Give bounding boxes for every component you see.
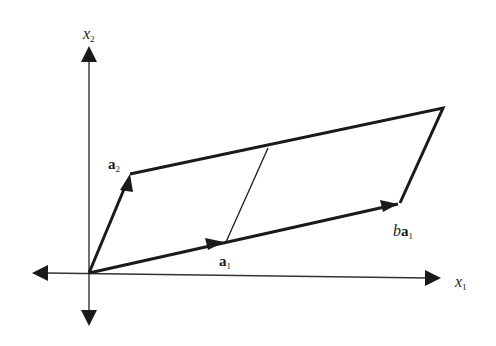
ba1-label-subscript: 1	[409, 231, 414, 241]
a2-label: a2	[108, 157, 120, 174]
x1-axis-left-arrow-icon	[32, 265, 48, 281]
a1-label: a1	[219, 254, 231, 271]
x2-label-subscript: 2	[90, 34, 95, 44]
ba1-scalar: b	[393, 222, 401, 239]
x2-axis	[81, 46, 97, 326]
x1-axis-label: x1	[455, 274, 467, 292]
x2-axis-label: x2	[83, 26, 95, 44]
x2-axis-down-arrow-icon	[81, 310, 97, 326]
x1-axis-right-arrow-icon	[425, 270, 441, 286]
x1-label-subscript: 1	[462, 282, 467, 292]
vector-a2	[89, 174, 133, 273]
vector-a2-arrowhead-icon	[120, 174, 133, 192]
midline	[226, 148, 268, 242]
a1-label-text: a	[219, 253, 227, 269]
ba1-label: ba1	[393, 223, 413, 241]
a2-label-subscript: 2	[116, 164, 121, 174]
diagram-canvas	[0, 0, 496, 346]
x1-axis	[32, 265, 441, 286]
vector-ba1	[89, 200, 398, 273]
x2-axis-up-arrow-icon	[81, 46, 97, 62]
ba1-label-text: a	[401, 223, 409, 239]
a2-label-text: a	[108, 156, 116, 172]
a1-label-subscript: 1	[227, 261, 232, 271]
